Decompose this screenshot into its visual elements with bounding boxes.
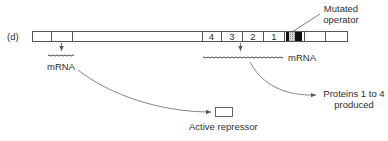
gene-3-label: 3 xyxy=(229,31,234,42)
operator-pointer-line xyxy=(292,14,320,32)
proteins-produced-label-line2: produced xyxy=(320,99,388,110)
proteins-produced-label-line1: Proteins 1 to 4 xyxy=(320,88,388,99)
mutated-operator-label-line2: operator xyxy=(318,14,364,25)
active-repressor-label: Active repressor xyxy=(189,121,258,132)
gene-1-label: 1 xyxy=(271,31,276,42)
mutated-operator-label: Mutated operator xyxy=(318,3,364,25)
gene-bar xyxy=(33,32,348,42)
gene-2-label: 2 xyxy=(250,31,255,42)
right-mrna-squiggle xyxy=(203,57,283,58)
left-mrna-label: mRNA xyxy=(47,61,75,72)
gene-4-label: 4 xyxy=(209,31,214,42)
translation-arrow-proteins-icon xyxy=(250,62,316,95)
right-mrna-label: mRNA xyxy=(288,52,316,63)
left-mrna-squiggle xyxy=(48,55,74,56)
mutated-operator-region xyxy=(286,32,302,41)
active-repressor-box xyxy=(216,108,233,117)
mutated-operator-label-line1: Mutated xyxy=(318,3,364,14)
proteins-produced-label: Proteins 1 to 4 produced xyxy=(320,88,388,110)
translation-arrow-repressor-icon xyxy=(78,70,211,112)
panel-label: (d) xyxy=(7,31,19,42)
